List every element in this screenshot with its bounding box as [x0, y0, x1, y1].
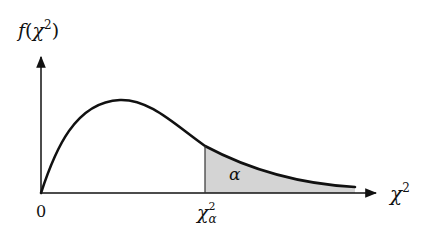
density-curve: [41, 100, 355, 193]
origin-label: 0: [36, 202, 46, 221]
critical-value-label: χ2α: [195, 200, 217, 226]
y-axis-label: f(χ2): [16, 18, 59, 41]
area-label: α: [229, 164, 241, 184]
chi-square-diagram: f(χ2) χ2 0 χ2α α: [0, 0, 429, 244]
x-axis-label: χ2: [388, 181, 410, 206]
